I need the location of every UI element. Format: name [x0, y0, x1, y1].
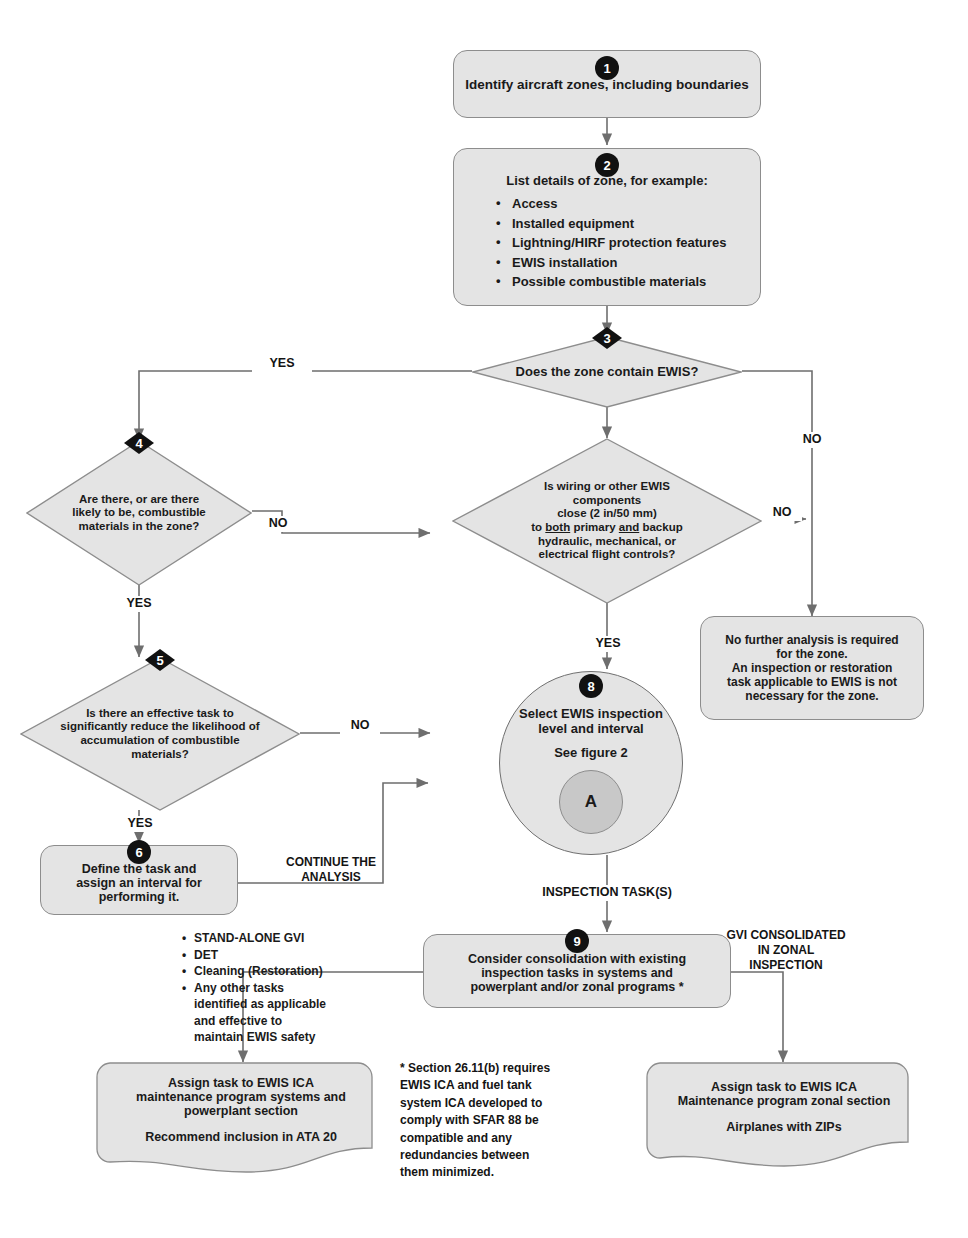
node-select-inspection-level[interactable]: Select EWIS inspection level and interva… [499, 671, 683, 855]
edge-label-no-7: NO [762, 505, 802, 521]
continue-analysis-line1: CONTINUE THE [256, 855, 406, 870]
node5-line1: Is there an effective task to [60, 707, 259, 721]
task-list-item: • STAND-ALONE GVI [180, 930, 395, 947]
task-type-list: • STAND-ALONE GVI • DET • Cleaning (Rest… [180, 930, 395, 1046]
assign-systems-line4: Recommend inclusion in ATA 20 [145, 1130, 337, 1144]
flowchart-canvas: Identify aircraft zones, including bound… [0, 0, 968, 1238]
footnote-line7: them minimized. [400, 1164, 620, 1181]
edge-label-yes-7: YES [578, 636, 638, 652]
footnote-line4: comply with SFAR 88 be [400, 1112, 620, 1129]
task-list-item-cont: maintain EWIS safety [194, 1029, 395, 1046]
edge-label-gvi-consolidated: GVI CONSOLIDATED IN ZONAL INSPECTION [700, 928, 872, 973]
node9-line3: powerplant and/or zonal programs * [432, 980, 722, 994]
edge-label-no-4: NO [258, 516, 298, 532]
continue-analysis-line2: ANALYSIS [256, 870, 406, 885]
footnote-sfar88: * Section 26.11(b) requires EWIS ICA and… [400, 1060, 620, 1182]
nofurther-line1: No further analysis is required [709, 633, 915, 647]
step-badge-6: 6 [127, 840, 151, 864]
footnote-line5: compatible and any [400, 1130, 620, 1147]
edge-label-continue-analysis: CONTINUE THE ANALYSIS [256, 855, 406, 885]
node6-line2: assign an interval for [49, 876, 229, 890]
footnote-line1: * Section 26.11(b) requires [400, 1060, 620, 1077]
node5-line2: significantly reduce the likelihood of [60, 720, 259, 734]
task-list-item-cont: identified as applicable [194, 996, 395, 1013]
node9-line2: inspection tasks in systems and [432, 966, 722, 980]
assign-systems-line2: maintenance program systems and [136, 1090, 346, 1104]
task-list-item-cont: and effective to [194, 1013, 395, 1030]
edge-label-yes-5: YES [110, 816, 170, 832]
gvi-line3: INSPECTION [700, 958, 872, 973]
assign-systems-line1: Assign task to EWIS ICA [168, 1076, 314, 1090]
nofurther-line4: task applicable to EWIS is not [709, 675, 915, 689]
task-list-item: • Cleaning (Restoration) [180, 963, 395, 980]
task-list-item: • Any other tasks identified as applicab… [180, 980, 395, 1046]
bullet-dot: • [182, 947, 186, 964]
node2-bullet-list: Access Installed equipment Lightning/HIR… [462, 194, 752, 292]
assign-zonal-line3: Airplanes with ZIPs [726, 1120, 841, 1134]
connector-circle-a[interactable]: A [559, 770, 623, 834]
node6-line1: Define the task and [49, 862, 229, 876]
footnote-line6: redundancies between [400, 1147, 620, 1164]
bullet-dot: • [182, 963, 186, 980]
node4-line1: Are there, or are there [72, 493, 206, 507]
node7-line3: close (2 in/50 mm) [531, 507, 682, 521]
node7-line4: to both primary and backup [531, 521, 682, 535]
step-badge-2: 2 [595, 153, 619, 177]
node2-bullet: EWIS installation [496, 253, 752, 273]
nofurther-line5: necessary for the zone. [709, 689, 915, 703]
footnote-line3: system ICA developed to [400, 1095, 620, 1112]
node-assign-zonal-section[interactable]: Assign task to EWIS ICA Maintenance prog… [646, 1062, 922, 1180]
decision-wiring-near-flight-controls[interactable]: Is wiring or other EWIS components close… [452, 438, 762, 604]
nofurther-line2: for the zone. [709, 647, 915, 661]
node2-bullet: Access [496, 194, 752, 214]
node9-line1: Consider consolidation with existing [432, 952, 722, 966]
node7-line5: hydraulic, mechanical, or [531, 535, 682, 549]
step-badge-8: 8 [579, 674, 603, 698]
step-badge-9: 9 [565, 929, 589, 953]
footnote-line2: EWIS ICA and fuel tank [400, 1077, 620, 1094]
node8-line2: level and interval [519, 721, 663, 736]
task-list-item: • DET [180, 947, 395, 964]
node-assign-systems-powerplant[interactable]: Assign task to EWIS ICA maintenance prog… [96, 1062, 386, 1184]
node4-line3: materials in the zone? [72, 520, 206, 534]
node3-text: Does the zone contain EWIS? [516, 364, 699, 379]
edge-label-no-5: NO [340, 718, 380, 734]
decision-combustible-materials[interactable]: Are there, or are there likely to be, co… [26, 440, 252, 586]
edge-label-yes-4: YES [104, 596, 174, 612]
node4-line2: likely to be, combustible [72, 506, 206, 520]
bullet-dot: • [182, 930, 186, 947]
edge-label-inspection-tasks: INSPECTION TASK(S) [497, 885, 717, 901]
node5-line4: materials? [60, 748, 259, 762]
node7-line1: Is wiring or other EWIS [531, 480, 682, 494]
node5-line3: accumulation of combustible [60, 734, 259, 748]
gvi-line1: GVI CONSOLIDATED [700, 928, 872, 943]
nofurther-line3: An inspection or restoration [709, 661, 915, 675]
gvi-line2: IN ZONAL [700, 943, 872, 958]
node-no-further-analysis[interactable]: No further analysis is required for the … [700, 616, 924, 720]
node7-line2: components [531, 494, 682, 508]
assign-zonal-line2: Maintenance program zonal section [678, 1094, 891, 1108]
node6-line3: performing it. [49, 890, 229, 904]
assign-systems-line3: powerplant section [184, 1104, 298, 1118]
node2-bullet: Lightning/HIRF protection features [496, 233, 752, 253]
edge-label-no-3: NO [786, 432, 838, 448]
edge-label-yes-3: YES [252, 356, 312, 372]
step-badge-1: 1 [595, 56, 619, 80]
node2-bullet: Installed equipment [496, 214, 752, 234]
bullet-dot: • [182, 980, 186, 997]
node8-line1: Select EWIS inspection [519, 706, 663, 721]
node8-line3: See figure 2 [554, 745, 628, 760]
assign-zonal-line1: Assign task to EWIS ICA [711, 1080, 857, 1094]
node7-line6: electrical flight controls? [531, 548, 682, 562]
node2-bullet: Possible combustible materials [496, 272, 752, 292]
decision-effective-task[interactable]: Is there an effective task to significan… [20, 657, 300, 811]
